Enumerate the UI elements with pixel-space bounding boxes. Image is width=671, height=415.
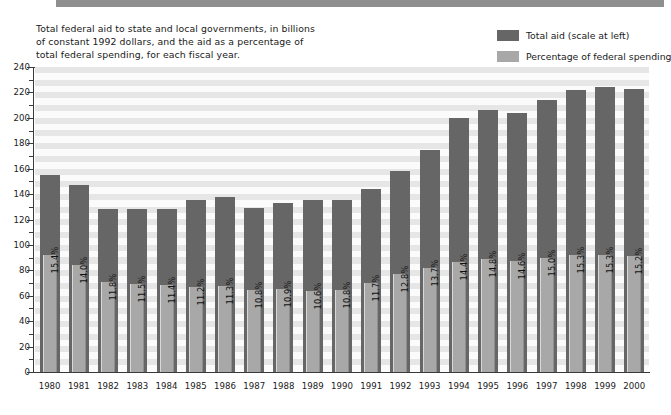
caption-line-2: of constant 1992 dollars, and the aid as… (36, 35, 386, 48)
x-tick-label: 1993 (415, 376, 444, 396)
percentage-label: 14.8% (488, 251, 498, 278)
y-tick-major (27, 372, 33, 373)
percentage-label: 14.4% (459, 254, 469, 281)
y-tick-label: 180 (0, 138, 30, 148)
bar-slot: 10.8% (327, 67, 356, 372)
y-tick-label: 100 (0, 240, 30, 250)
bar-slot: 11.8% (93, 67, 122, 372)
percentage-bar[interactable]: 10.8% (247, 290, 261, 372)
x-tick-label: 1996 (503, 376, 532, 396)
y-tick-label: 80 (0, 265, 30, 275)
x-tick-label: 1980 (35, 376, 64, 396)
y-tick-major (27, 169, 33, 170)
plot-wrapper: 020406080100120140160180200220240 15.4%1… (0, 60, 664, 415)
y-tick-major (27, 143, 33, 144)
percentage-bar[interactable]: 11.3% (218, 286, 232, 372)
x-tick-label: 1994 (444, 376, 473, 396)
y-tick-major (27, 220, 33, 221)
bar-slot: 11.5% (123, 67, 152, 372)
percentage-bar[interactable]: 12.8% (393, 274, 407, 372)
y-tick-major (27, 347, 33, 348)
percentage-bar[interactable]: 11.4% (160, 285, 174, 372)
x-axis-line (33, 372, 650, 373)
x-tick-label: 1981 (64, 376, 93, 396)
x-tick-label: 1997 (532, 376, 561, 396)
legend-item-total-aid: Total aid (scale at left) (497, 27, 667, 44)
y-tick-label: 120 (0, 215, 30, 225)
y-tick-major (27, 92, 33, 93)
bar-slot: 14.0% (64, 67, 93, 372)
x-axis-tick-labels: 1980198119821983198419851986198719881989… (35, 376, 649, 396)
x-tick-label: 1988 (269, 376, 298, 396)
legend-label-total-aid: Total aid (scale at left) (526, 30, 629, 41)
bar-slot: 14.8% (474, 67, 503, 372)
percentage-bar[interactable]: 15.3% (569, 255, 583, 372)
bar-slot: 15.4% (35, 67, 64, 372)
percentage-label: 10.8% (254, 281, 264, 308)
percentage-label: 10.8% (342, 281, 352, 308)
percentage-bar[interactable]: 14.8% (481, 259, 495, 372)
bar-slot: 15.3% (561, 67, 590, 372)
x-tick-label: 1991 (357, 376, 386, 396)
y-tick-major (27, 296, 33, 297)
plot-area: 15.4%14.0%11.8%11.5%11.4%11.2%11.3%10.8%… (35, 67, 649, 372)
y-tick-minor (29, 283, 33, 284)
bar-slot: 11.4% (152, 67, 181, 372)
bar-slot: 10.9% (269, 67, 298, 372)
bar-slot: 11.2% (181, 67, 210, 372)
y-tick-label: 0 (0, 367, 30, 377)
x-tick-label: 1982 (93, 376, 122, 396)
y-tick-minor (29, 359, 33, 360)
bar-slot: 11.7% (357, 67, 386, 372)
x-tick-label: 1995 (474, 376, 503, 396)
x-tick-label: 1990 (327, 376, 356, 396)
percentage-label: 12.8% (400, 266, 410, 293)
y-tick-minor (29, 80, 33, 81)
percentage-label: 11.5% (137, 276, 147, 303)
top-banner (56, 0, 664, 7)
bar-slot: 12.8% (386, 67, 415, 372)
percentage-bar[interactable]: 11.7% (364, 283, 378, 372)
x-tick-label: 1989 (298, 376, 327, 396)
chart-caption: Total federal aid to state and local gov… (36, 22, 386, 62)
y-tick-minor (29, 131, 33, 132)
y-tick-label: 220 (0, 87, 30, 97)
percentage-label: 11.7% (371, 274, 381, 301)
caption-line-1: Total federal aid to state and local gov… (36, 22, 386, 35)
y-tick-major (27, 67, 33, 68)
percentage-bar[interactable]: 15.0% (540, 258, 554, 372)
percentage-label: 11.4% (167, 277, 177, 304)
percentage-label: 15.3% (576, 247, 586, 274)
percentage-bar[interactable]: 10.8% (335, 290, 349, 372)
percentage-label: 15.3% (605, 247, 615, 274)
y-tick-minor (29, 334, 33, 335)
percentage-bar[interactable]: 14.0% (72, 265, 86, 372)
bar-slot: 14.6% (503, 67, 532, 372)
percentage-bar[interactable]: 15.3% (598, 255, 612, 372)
percentage-bar[interactable]: 15.4% (43, 255, 57, 372)
x-tick-label: 1998 (561, 376, 590, 396)
bar-slot: 11.3% (210, 67, 239, 372)
y-tick-label: 60 (0, 291, 30, 301)
y-tick-minor (29, 308, 33, 309)
y-tick-label: 140 (0, 189, 30, 199)
percentage-bar[interactable]: 10.9% (276, 289, 290, 372)
percentage-bar[interactable]: 11.5% (130, 284, 144, 372)
percentage-label: 14.6% (517, 252, 527, 279)
percentage-bar[interactable]: 11.2% (189, 287, 203, 372)
y-tick-major (27, 245, 33, 246)
percentage-bar[interactable]: 14.4% (452, 262, 466, 372)
y-tick-label: 160 (0, 164, 30, 174)
percentage-bar[interactable]: 13.7% (423, 268, 437, 372)
legend-swatch-total-aid (497, 30, 519, 41)
percentage-label: 15.0% (547, 249, 557, 276)
percentage-label: 11.3% (225, 277, 235, 304)
percentage-bar[interactable]: 10.6% (306, 291, 320, 372)
percentage-bar[interactable]: 14.6% (510, 261, 524, 372)
x-tick-label: 1986 (210, 376, 239, 396)
bar-group: 15.4%14.0%11.8%11.5%11.4%11.2%11.3%10.8%… (35, 67, 649, 372)
x-tick-label: 1992 (386, 376, 415, 396)
percentage-bar[interactable]: 15.2% (627, 256, 641, 372)
percentage-bar[interactable]: 11.8% (101, 282, 115, 372)
y-tick-major (27, 321, 33, 322)
